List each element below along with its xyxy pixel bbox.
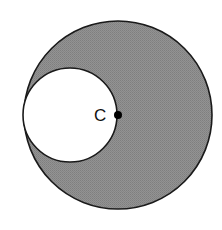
geometry-diagram: C — [0, 0, 222, 230]
center-point-c — [114, 111, 122, 119]
point-label-c: C — [94, 106, 106, 125]
